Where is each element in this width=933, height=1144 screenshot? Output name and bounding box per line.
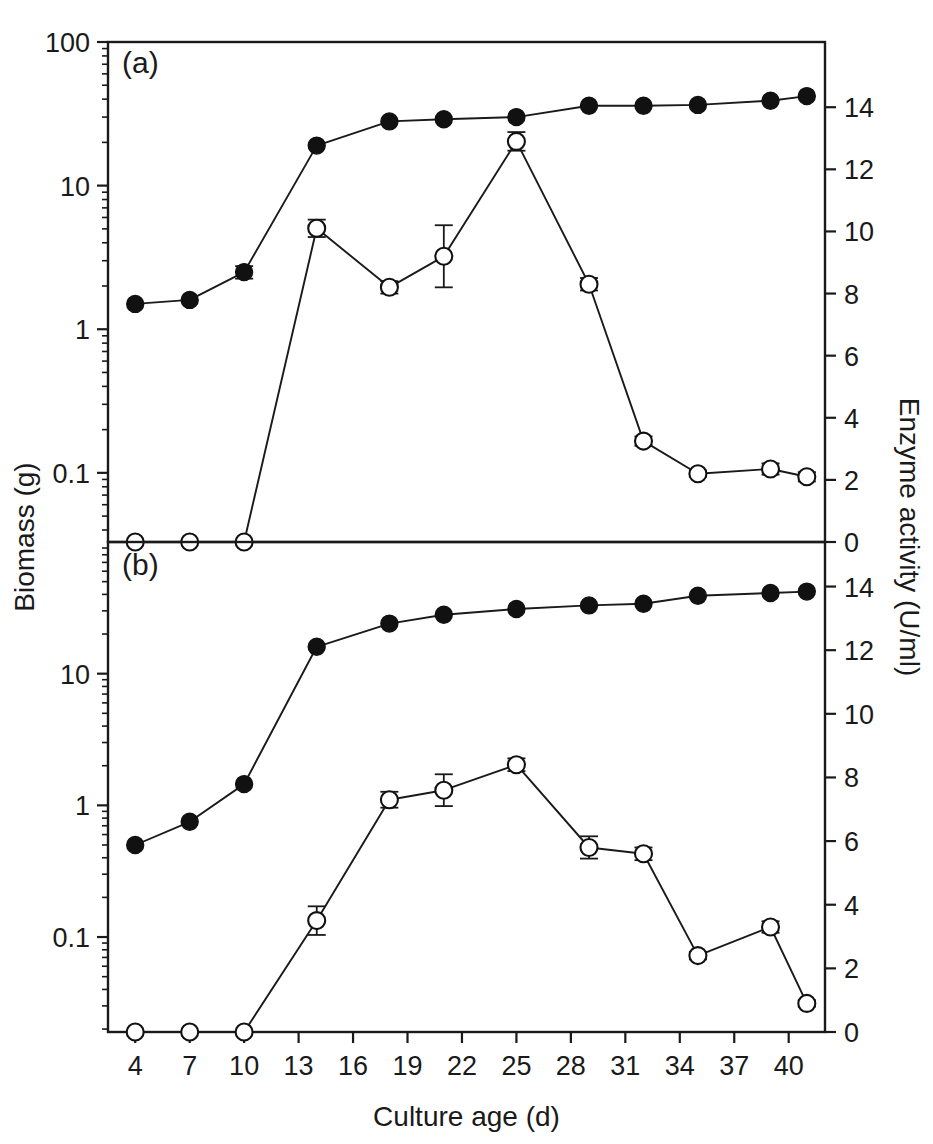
panel-a-filled-marker [689,96,706,113]
panel-a-right-tick-label: 2 [844,466,859,496]
panel-a-right-tick-label: 6 [844,342,859,372]
x-tick-label: 16 [338,1051,368,1081]
x-tick-label: 31 [610,1051,640,1081]
panel-b-left-tick-label: 1 [75,791,90,821]
panel-a-open-marker [508,133,525,150]
panel-a-right-tick-label: 0 [844,528,859,558]
panel-b-right-tick-label: 10 [844,700,874,730]
panel-a-right-tick-label: 8 [844,280,859,310]
x-tick-label: 28 [556,1051,586,1081]
panel-b-right-tick-label: 12 [844,636,874,666]
panel-b-right-tick-label: 4 [844,891,859,921]
panel-a-left-tick-label: 10 [60,172,90,202]
panel-a-open-marker [635,433,652,450]
panel-b-open-marker [581,839,598,856]
panel-b-filled-marker [689,587,706,604]
y-axis-title-left: Biomass (g) [9,462,40,611]
panel-b-filled-marker [508,601,525,618]
panel-b-open-marker [381,791,398,808]
x-tick-label: 40 [774,1051,804,1081]
panel-b-right-tick-label: 8 [844,763,859,793]
panel-b-filled-marker [181,813,198,830]
panel-a-open-marker [381,279,398,296]
panel-a-left-tick-label: 100 [45,28,90,58]
panel-a-filled-marker [508,109,525,126]
panel-a-right-tick-label: 4 [844,404,859,434]
panel-a-filled-marker [798,88,815,105]
panel-b-filled-marker [635,595,652,612]
panel-a-filled-marker [762,92,779,109]
panel-b-open-marker [308,912,325,929]
panel-b-right-tick-label: 6 [844,827,859,857]
panel-a-open-marker [762,461,779,478]
x-tick-label: 34 [665,1051,695,1081]
x-tick-label: 13 [284,1051,314,1081]
panel-b-filled-marker [581,597,598,614]
panel-a-filled-marker [435,111,452,128]
panel-b-open-marker [435,782,452,799]
panel-b-filled-marker [236,776,253,793]
x-tick-label: 22 [447,1051,477,1081]
panel-a-frame [108,42,825,542]
panel-b-label: (b) [122,548,159,582]
panel-b-open-marker [689,947,706,964]
x-tick-label: 7 [182,1051,197,1081]
panel-b-filled-marker [762,585,779,602]
panel-a-open-marker [798,468,815,485]
panel-a-label: (a) [122,46,159,80]
panel-a-filled-marker [635,97,652,114]
panel-b-open-marker [236,1024,253,1041]
panel-b-open-marker [762,919,779,936]
figure-root: 0.1110100024681012140.111002468101214471… [0,0,933,1144]
panel-b-right-tick-label: 14 [844,573,874,603]
panel-b-series-biomass-line [135,592,807,845]
panel-b-frame [108,542,825,1032]
panel-b-filled-marker [308,638,325,655]
panel-b-right-tick-label: 2 [844,954,859,984]
panel-b-series-enzyme-line [135,765,807,1032]
panel-a-left-tick-label: 0.1 [52,459,90,489]
panel-a-left-tick-label: 1 [75,315,90,345]
x-tick-label: 10 [229,1051,259,1081]
panel-a-filled-marker [236,264,253,281]
panel-b-open-marker [127,1024,144,1041]
panel-a-open-marker [435,248,452,265]
panel-b-right-tick-label: 0 [844,1018,859,1048]
panel-a-open-marker [689,465,706,482]
panel-b-open-marker [181,1024,198,1041]
panel-b-open-marker [508,756,525,773]
panel-a-filled-marker [181,291,198,308]
x-tick-label: 37 [719,1051,749,1081]
panel-b-filled-marker [381,615,398,632]
panel-b-filled-marker [435,606,452,623]
panel-a-right-tick-label: 12 [844,155,874,185]
panel-a-filled-marker [308,137,325,154]
panel-a-open-marker [308,220,325,237]
x-tick-label: 4 [128,1051,143,1081]
panel-b-left-tick-label: 0.1 [52,923,90,953]
panel-a-series-enzyme-line [135,141,807,542]
x-tick-label: 25 [501,1051,531,1081]
panel-a-filled-marker [127,295,144,312]
panel-b-left-tick-label: 10 [60,660,90,690]
x-tick-label: 19 [392,1051,422,1081]
panel-b-open-marker [798,995,815,1012]
panel-a-right-tick-label: 14 [844,93,874,123]
panel-a-filled-marker [381,113,398,130]
panel-b-open-marker [635,845,652,862]
panel-b-filled-marker [127,837,144,854]
panel-a-open-marker [581,276,598,293]
panel-b-filled-marker [798,583,815,600]
panel-a-filled-marker [581,97,598,114]
x-axis-title: Culture age (d) [373,1101,560,1132]
y-axis-title-right: Enzyme activity (U/ml) [894,398,925,676]
panel-a-right-tick-label: 10 [844,217,874,247]
